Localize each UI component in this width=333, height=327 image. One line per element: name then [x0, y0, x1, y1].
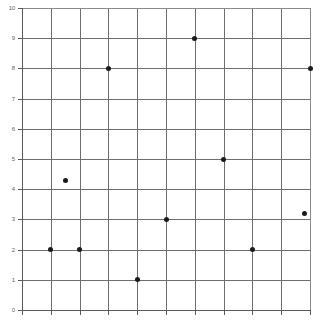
x-axis-tick [51, 311, 52, 315]
gridline-horizontal [22, 68, 311, 69]
gridline-horizontal [22, 280, 311, 281]
y-axis-tick [18, 8, 23, 9]
y-axis-tick [18, 189, 23, 190]
gridline-horizontal [22, 189, 311, 190]
y-axis-tick-label: 7 [1, 96, 15, 103]
scatter-plot-figure: 012345678910 [0, 0, 333, 327]
x-axis-tick [281, 311, 282, 315]
x-axis-tick [224, 311, 225, 315]
y-axis-tick-label: 3 [1, 216, 15, 223]
data-point [308, 66, 313, 71]
gridline-horizontal [22, 159, 311, 160]
data-point [302, 211, 307, 216]
x-axis-tick [22, 311, 23, 315]
x-axis-tick [166, 311, 167, 315]
y-axis-tick-label: 9 [1, 35, 15, 42]
y-axis-tick [18, 280, 23, 281]
y-axis-tick-label: 8 [1, 65, 15, 72]
data-point [63, 178, 68, 183]
y-axis-tick [18, 68, 23, 69]
y-axis-tick [18, 99, 23, 100]
y-axis-tick-label: 0 [1, 307, 15, 314]
axis-right-spine [310, 8, 311, 311]
y-axis-tick-label: 6 [1, 126, 15, 133]
x-axis-tick [310, 311, 311, 315]
data-point [164, 217, 169, 222]
axis-top-spine [22, 8, 311, 9]
data-point [250, 247, 255, 252]
y-axis-tick-label: 5 [1, 156, 15, 163]
gridline-horizontal [22, 129, 311, 130]
y-axis-tick [18, 38, 23, 39]
y-axis-tick-label: 4 [1, 186, 15, 193]
y-axis-tick [18, 219, 23, 220]
gridline-horizontal [22, 38, 311, 39]
x-axis-tick [195, 311, 196, 315]
y-axis-tick-label: 1 [1, 277, 15, 284]
y-axis-tick [18, 129, 23, 130]
x-axis-tick [137, 311, 138, 315]
data-point [106, 66, 111, 71]
y-axis-tick-label: 10 [1, 5, 15, 12]
y-axis-tick [18, 159, 23, 160]
x-axis-tick [80, 311, 81, 315]
y-axis-tick-label: 2 [1, 247, 15, 254]
y-axis-tick [18, 250, 23, 251]
gridline-horizontal [22, 99, 311, 100]
x-axis-tick [252, 311, 253, 315]
data-point [221, 157, 226, 162]
gridline-horizontal [22, 250, 311, 251]
x-axis-tick [108, 311, 109, 315]
